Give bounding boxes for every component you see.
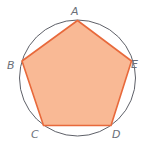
vertex-label-a: A [70,5,79,18]
vertex-label-b: B [7,59,15,72]
pentagon-abcde [22,21,132,126]
vertex-label-e: E [131,58,138,71]
vertex-label-c: C [31,128,39,141]
vertex-label-d: D [112,128,120,141]
pentagon-diagram: A B E C D [0,0,151,147]
